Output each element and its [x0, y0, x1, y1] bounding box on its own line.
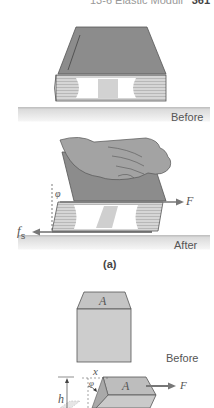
caption-before-a: Before [171, 111, 203, 123]
area-label-before: A [99, 294, 106, 309]
height-label: h [58, 392, 64, 407]
block-after [60, 377, 156, 408]
angle-label-b: φ [89, 378, 94, 388]
displacement-label: x [93, 365, 98, 377]
area-label-after: A [122, 379, 129, 394]
figure-illustration [0, 0, 214, 408]
panel-label-a: (a) [103, 258, 116, 270]
force-label-a: F [186, 194, 193, 209]
friction-subscript: s [21, 231, 26, 241]
caption-after-a: After [174, 239, 197, 251]
force-label-b: F [180, 379, 187, 391]
friction-label: fs [17, 223, 25, 241]
caption-before-b: Before [166, 352, 198, 364]
angle-label-a: φ [55, 188, 61, 199]
book-before [55, 27, 167, 101]
